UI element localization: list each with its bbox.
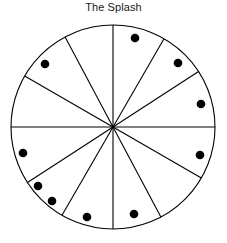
splash-dot [174,59,183,68]
splash-dot [34,182,43,191]
splash-dot [48,197,57,206]
splash-dot [83,213,92,222]
splash-dot [196,151,205,160]
splash-figure: The Splash [0,0,227,243]
splash-dot [41,60,50,69]
splash-dot [131,34,140,43]
splash-dot [19,149,28,158]
splash-dot [130,210,139,219]
splash-diagram [0,0,227,243]
splash-dot [197,100,206,109]
sector-lines-group [11,25,215,229]
